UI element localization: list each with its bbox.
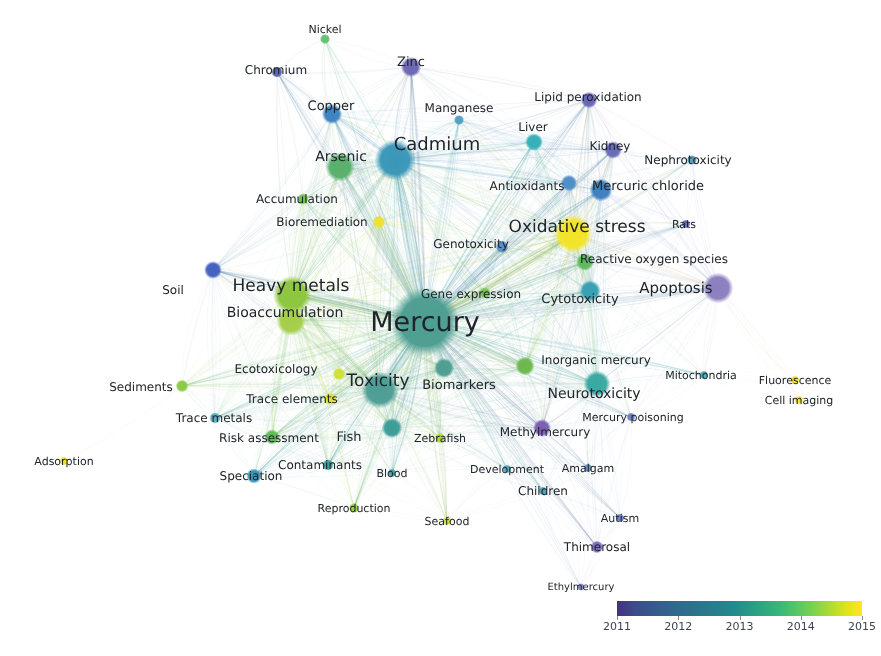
- color-legend-tick-label: 2013: [726, 620, 754, 633]
- color-legend-tick-label: 2012: [664, 620, 692, 633]
- network-graph-canvas[interactable]: [0, 0, 881, 656]
- color-legend-tick-label: 2011: [603, 620, 631, 633]
- color-legend: 20112012201320142015: [615, 598, 865, 642]
- network-map[interactable]: MercuryCadmiumOxidative stressHeavy meta…: [0, 0, 881, 656]
- color-legend-gradient-bar: [617, 601, 862, 616]
- color-legend-tick-label: 2014: [787, 620, 815, 633]
- color-legend-tick-label: 2015: [848, 620, 876, 633]
